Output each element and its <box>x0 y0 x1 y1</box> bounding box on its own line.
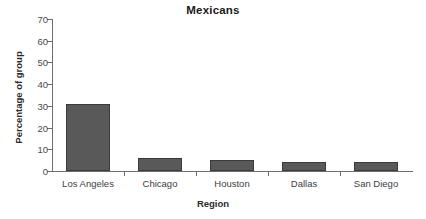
chart-title: Mexicans <box>0 4 426 16</box>
x-tick-mark <box>196 171 197 176</box>
bar <box>354 162 398 171</box>
chart-figure: Mexicans Percentage of group 01020304050… <box>0 0 426 219</box>
y-tick-label: 60 <box>37 35 48 46</box>
x-category-label: Dallas <box>291 178 317 189</box>
x-category-label: San Diego <box>354 178 398 189</box>
x-tick-mark <box>268 171 269 176</box>
bar <box>66 104 110 171</box>
bar <box>210 160 254 171</box>
y-tick-label: 10 <box>37 144 48 155</box>
y-tick-label: 30 <box>37 100 48 111</box>
x-tick-mark <box>340 171 341 176</box>
x-category-label: Chicago <box>143 178 178 189</box>
y-axis-title: Percentage of group <box>13 28 24 168</box>
x-axis-line <box>52 171 413 172</box>
x-category-label: Los Angeles <box>62 178 114 189</box>
x-category-label: Houston <box>214 178 249 189</box>
bar <box>138 158 182 171</box>
y-tick-label: 40 <box>37 79 48 90</box>
y-tick-label: 20 <box>37 122 48 133</box>
y-tick-label: 50 <box>37 57 48 68</box>
x-tick-mark <box>124 171 125 176</box>
y-tick-label: 0 <box>43 166 48 177</box>
y-tick-label: 70 <box>37 14 48 25</box>
bar <box>282 162 326 171</box>
plot-area: 010203040506070 <box>52 19 412 171</box>
x-axis-title: Region <box>0 198 426 209</box>
